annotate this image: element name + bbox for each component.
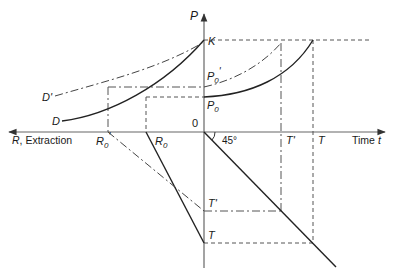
origin-label: 0 — [192, 117, 198, 129]
price-axis-label: P — [190, 9, 198, 23]
T-lower-label: T — [208, 229, 216, 241]
resource-extraction-diagram: P 0 Time t R, Extraction 45° K P0' P0 D … — [0, 0, 393, 279]
D-prime-label: D' — [42, 91, 53, 103]
K-label: K — [208, 35, 216, 47]
demand-curve-D — [62, 40, 204, 121]
P0-prime-label: P0' — [207, 66, 222, 85]
T-axis-label: T — [318, 134, 326, 146]
45-degree-arc — [212, 132, 215, 140]
R0-label: R0 — [155, 135, 168, 150]
T-prime-lower-label: T' — [208, 197, 218, 209]
R0-prime-label: R0' — [96, 131, 111, 150]
extraction-axis-label: R, Extraction — [12, 134, 72, 146]
time-axis-label: Time t — [352, 134, 382, 146]
P0-label: P0 — [207, 99, 219, 114]
demand-curve-D-prime — [55, 42, 204, 96]
angle-label: 45° — [222, 135, 237, 146]
T-prime-axis-label: T' — [286, 134, 296, 146]
D-label: D — [52, 115, 60, 127]
45-degree-line — [204, 132, 336, 267]
